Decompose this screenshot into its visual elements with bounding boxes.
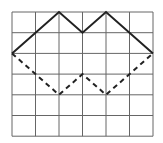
grid-figure	[0, 0, 163, 143]
